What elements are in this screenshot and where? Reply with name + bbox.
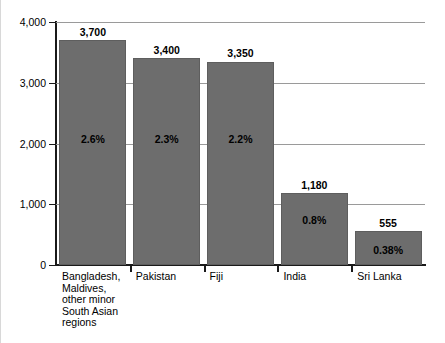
x-axis-category-label: Sri Lanka xyxy=(357,271,445,283)
bar-percent-label: 0.8% xyxy=(281,215,348,226)
bar-percent-label: 0.38% xyxy=(355,245,422,256)
bar-value-label: 3,400 xyxy=(133,45,200,56)
bar-percent-label: 2.3% xyxy=(133,134,200,145)
y-tick-mark xyxy=(49,144,56,145)
bar xyxy=(207,62,274,266)
plot-area: 3,7002.6%3,4002.3%3,3502.2%1,1800.8%5550… xyxy=(56,22,425,265)
y-tick-label: 2,000 xyxy=(0,139,46,150)
y-tick-label: 4,000 xyxy=(0,17,46,28)
y-tick-mark xyxy=(49,22,56,23)
bar-chart: 01,0002,0003,0004,000 3,7002.6%3,4002.3%… xyxy=(0,0,445,343)
gridline-4000 xyxy=(56,22,425,23)
y-tick-label: 3,000 xyxy=(0,78,46,89)
bar-value-label: 3,350 xyxy=(207,48,274,59)
y-tick-label: 0 xyxy=(0,260,46,271)
bar-value-label: 3,700 xyxy=(59,27,126,38)
y-tick-mark xyxy=(49,83,56,84)
bar xyxy=(281,193,348,265)
scan-edge-line xyxy=(0,0,1,343)
y-tick-mark xyxy=(49,265,56,266)
y-tick-mark xyxy=(49,204,56,205)
bar-value-label: 555 xyxy=(355,218,422,229)
bar-percent-label: 2.6% xyxy=(59,134,126,145)
y-tick-label: 1,000 xyxy=(0,199,46,210)
bar-percent-label: 2.2% xyxy=(207,134,274,145)
bar xyxy=(133,58,200,265)
bar xyxy=(59,40,126,265)
bar-value-label: 1,180 xyxy=(281,180,348,191)
